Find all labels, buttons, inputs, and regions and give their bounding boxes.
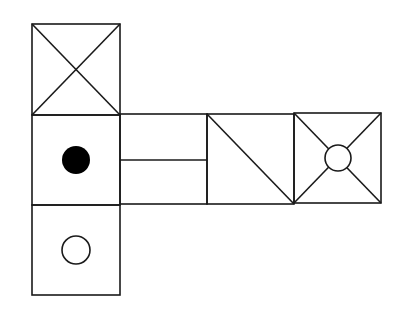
face-right-1-border — [120, 114, 207, 204]
diagonal-line — [207, 114, 294, 204]
face-bottom — [32, 205, 120, 295]
cube-net-diagram — [0, 0, 403, 309]
filled-dot-icon — [62, 146, 90, 174]
hollow-circle-icon — [325, 145, 351, 171]
face-right-1 — [120, 114, 207, 204]
face-right-2 — [207, 114, 294, 204]
face-top — [32, 24, 120, 115]
face-center — [32, 115, 120, 205]
face-right-3 — [294, 113, 381, 203]
hollow-circle-icon — [62, 236, 90, 264]
